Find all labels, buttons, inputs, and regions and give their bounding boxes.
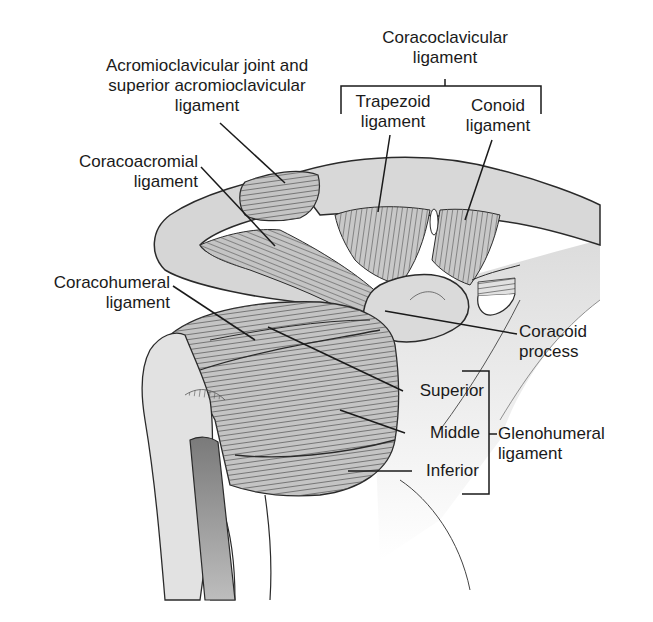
label-ac-joint-line1: Acromioclavicular joint and: [82, 56, 332, 76]
label-coracoacromial: Coracoacromial ligament: [40, 152, 198, 192]
label-coracohumeral: Coracohumeral ligament: [10, 273, 170, 313]
label-coracoid-process: Coracoid process: [519, 322, 639, 362]
label-coracoclavicular-line2: ligament: [360, 48, 530, 68]
label-glenohumeral-line2: ligament: [498, 444, 648, 464]
label-coracoclavicular-line1: Coracoclavicular: [360, 28, 530, 48]
label-conoid-line1: Conoid: [453, 96, 543, 116]
label-trapezoid-line2: ligament: [343, 112, 443, 132]
label-trapezoid-line1: Trapezoid: [343, 92, 443, 112]
label-superior: Superior: [390, 381, 484, 401]
label-conoid: Conoid ligament: [453, 96, 543, 136]
label-coracoclavicular: Coracoclavicular ligament: [360, 28, 530, 68]
label-middle: Middle: [390, 423, 480, 443]
label-trapezoid: Trapezoid ligament: [343, 92, 443, 132]
label-ac-joint-line2: superior acromioclavicular: [82, 76, 332, 96]
label-glenohumeral: Glenohumeral ligament: [498, 424, 648, 464]
label-coracoid-line1: Coracoid: [519, 322, 639, 342]
coracoclavicular-ligament-shape: [335, 207, 500, 285]
label-coracohumeral-line1: Coracohumeral: [10, 273, 170, 293]
shoulder-ligament-diagram: Acromioclavicular joint and superior acr…: [0, 0, 653, 622]
label-coracoacromial-line2: ligament: [40, 172, 198, 192]
label-coracohumeral-line2: ligament: [10, 293, 170, 313]
label-ac-joint: Acromioclavicular joint and superior acr…: [82, 56, 332, 116]
label-coracoid-line2: process: [519, 342, 639, 362]
label-ac-joint-line3: ligament: [82, 96, 332, 116]
label-glenohumeral-line1: Glenohumeral: [498, 424, 648, 444]
label-coracoacromial-line1: Coracoacromial: [40, 152, 198, 172]
leader-ac-joint: [220, 123, 285, 183]
label-conoid-line2: ligament: [453, 116, 543, 136]
label-inferior: Inferior: [390, 461, 479, 481]
